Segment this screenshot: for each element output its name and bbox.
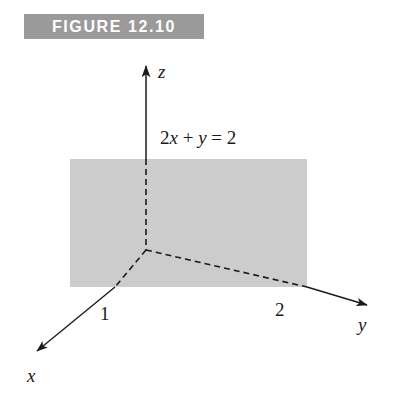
x-axis-label: x xyxy=(26,365,36,386)
plane-equation-label: 2x + y = 2 xyxy=(160,127,236,148)
equation-equals-value: = 2 xyxy=(207,127,237,148)
equation-variable-y: y xyxy=(196,127,207,148)
y-axis-label: y xyxy=(356,314,367,335)
figure-container: FIGURE 12.10 x y z 1 2 2x + y = 2 xyxy=(0,0,399,405)
y-intercept-label: 2 xyxy=(275,299,285,320)
equation-plus-sign: + xyxy=(178,127,198,148)
z-axis-label: z xyxy=(157,61,166,82)
equation-coefficient: 2 xyxy=(160,127,170,148)
y-axis-line xyxy=(307,287,367,305)
x-intercept-label: 1 xyxy=(100,303,110,324)
figure-diagram: x y z 1 2 2x + y = 2 xyxy=(0,0,399,405)
shaded-plane-region xyxy=(70,159,307,287)
